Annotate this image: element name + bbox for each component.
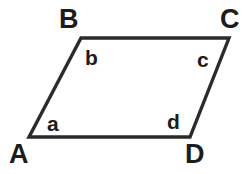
angle-label-d: d <box>167 111 180 132</box>
angle-label-c: c <box>197 49 209 70</box>
angle-label-a: a <box>47 113 59 134</box>
vertex-label-B: B <box>59 6 79 33</box>
parallelogram-drawing <box>0 0 246 174</box>
vertex-label-C: C <box>220 6 240 33</box>
vertex-label-D: D <box>185 141 205 168</box>
vertex-label-A: A <box>9 141 29 168</box>
angle-label-b: b <box>85 47 98 68</box>
parallelogram-figure: B C A D b c a d <box>0 0 246 174</box>
